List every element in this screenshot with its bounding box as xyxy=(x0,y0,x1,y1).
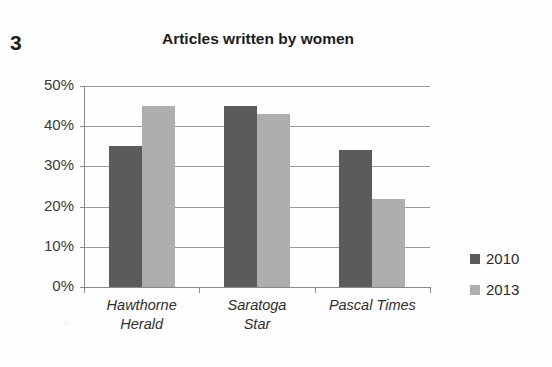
bar-2013-pascal-times xyxy=(372,199,405,287)
bar-2013-hawthorne-herald xyxy=(142,106,175,287)
chart-figure: 3 Articles written by women 50%40%30%20%… xyxy=(0,0,552,367)
x-axis-tick xyxy=(430,287,431,293)
y-axis-tick-label: 20% xyxy=(14,197,74,214)
legend-swatch-icon-2013 xyxy=(470,285,480,295)
x-axis-label-line: Saratoga xyxy=(195,296,319,315)
bar-2010-hawthorne-herald xyxy=(109,146,142,287)
y-axis-tick xyxy=(80,126,85,127)
x-axis-category-label: SaratogaStar xyxy=(195,296,319,334)
legend-label-2013: 2013 xyxy=(486,281,519,298)
y-axis-tick xyxy=(80,207,85,208)
x-axis-category-label: Pascal Times xyxy=(310,296,434,315)
gridline xyxy=(84,287,430,288)
y-axis-tick-label: 40% xyxy=(14,116,74,133)
plot-area xyxy=(84,86,430,287)
y-axis-tick xyxy=(80,247,85,248)
y-axis-tick xyxy=(80,86,85,87)
gridline xyxy=(84,86,430,87)
x-axis-tick xyxy=(199,287,200,293)
bar-2010-pascal-times xyxy=(339,150,372,287)
legend-item-2013: 2013 xyxy=(470,274,519,305)
legend-item-2010: 2010 xyxy=(470,243,519,274)
x-axis-tick xyxy=(315,287,316,293)
y-axis-tick xyxy=(80,166,85,167)
y-axis-tick-label: 30% xyxy=(14,156,74,173)
x-axis-label-line: Hawthorne xyxy=(80,296,204,315)
y-axis-tick-label: 10% xyxy=(14,237,74,254)
bar-2013-saratoga-star xyxy=(257,114,290,287)
x-axis-tick-origin xyxy=(84,287,85,293)
x-axis-label-line: Herald xyxy=(80,315,204,334)
chart-legend: 2010 2013 xyxy=(470,243,519,305)
x-axis-label-line: Star xyxy=(195,315,319,334)
legend-swatch-icon-2010 xyxy=(470,254,480,264)
y-axis-tick-label: 0% xyxy=(14,277,74,294)
x-axis-label-line: Pascal Times xyxy=(310,296,434,315)
x-axis-category-label: HawthorneHerald xyxy=(80,296,204,334)
legend-label-2010: 2010 xyxy=(486,250,519,267)
chart-title: Articles written by women xyxy=(84,30,432,48)
question-number: 3 xyxy=(10,31,22,55)
bar-2010-saratoga-star xyxy=(224,106,257,287)
y-axis-tick-label: 50% xyxy=(14,76,74,93)
